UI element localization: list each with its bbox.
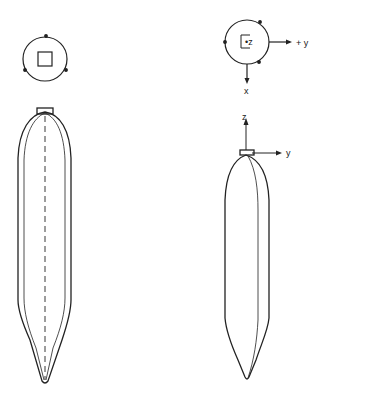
y-label: y — [286, 148, 291, 158]
left-top-view — [23, 35, 67, 81]
z-center-label: •z — [245, 37, 253, 47]
right-body — [225, 118, 282, 379]
right-body-cap — [240, 150, 254, 155]
left-body — [18, 108, 71, 383]
z-label: z — [242, 112, 247, 122]
left-top-circle — [23, 37, 67, 81]
x-label: x — [244, 86, 249, 96]
diagram-canvas: •z + y x z y — [0, 0, 366, 397]
right-top-view — [224, 20, 292, 84]
left-top-square — [38, 52, 52, 66]
plus-y-label: + y — [296, 38, 309, 48]
